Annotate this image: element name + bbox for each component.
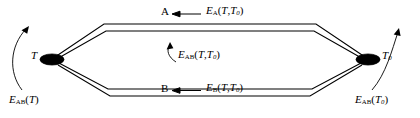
emf-upper-symbol: E	[206, 4, 213, 16]
emf-upper-paren-close: )	[240, 4, 244, 16]
upper-emf-arrow	[172, 11, 201, 17]
emf-lower-paren-close: )	[239, 81, 243, 93]
left-junction-label: T	[31, 50, 37, 61]
right-junction-temp-subscript: 0	[388, 54, 391, 61]
emf-right-subscript: AB	[362, 98, 371, 105]
emf-label-center: EAB(T,T0)	[178, 49, 220, 61]
emf-center-symbol: E	[178, 48, 185, 60]
left-arc-arrow	[13, 29, 26, 90]
right-junction-node-marker	[356, 54, 380, 65]
conductor-label-A: A	[161, 6, 169, 17]
emf-center-subscript: AB	[185, 53, 194, 60]
left-junction-temp-symbol: T	[31, 49, 37, 61]
emf-right-symbol: E	[355, 93, 362, 105]
right-arc-arrowhead	[394, 28, 401, 36]
emf-left-symbol: E	[9, 93, 16, 105]
emf-label-upper: EA(T,T0)	[206, 5, 243, 17]
thermocouple-circuit-figure: A B EA(T,T0) EB(T,T0) EAB(T,T0) EAB(T) E…	[0, 0, 420, 118]
left-junction-node-marker	[40, 54, 64, 65]
emf-right-paren-close: )	[384, 93, 388, 105]
right-junction-label: T0	[382, 50, 392, 62]
emf-lower-symbol: E	[206, 81, 213, 93]
emf-left-subscript: AB	[16, 98, 25, 105]
emf-label-left: EAB(T)	[9, 94, 39, 106]
center-arc-arrowhead	[167, 42, 174, 49]
conductor-label-B: B	[161, 83, 168, 94]
emf-label-right: EAB(T0)	[355, 94, 388, 106]
emf-left-paren-close: )	[35, 93, 39, 105]
emf-label-lower: EB(T,T0)	[206, 82, 243, 94]
emf-center-paren-close: )	[216, 48, 220, 60]
